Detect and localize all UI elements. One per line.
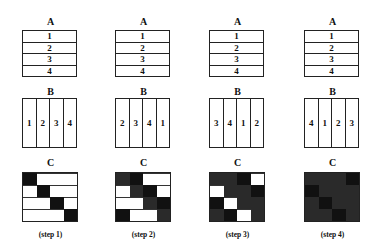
matrix-c-cell-dotted bbox=[224, 173, 238, 185]
matrix-c-cell-white bbox=[251, 173, 265, 185]
matrix-b: 4123 bbox=[304, 98, 359, 148]
matrix-c-cell-black bbox=[237, 173, 251, 185]
matrix-c-cell-dotted bbox=[251, 197, 265, 209]
matrix-c-cell-dotted bbox=[210, 209, 224, 221]
matrix-c-cell-dotted bbox=[237, 197, 251, 209]
step-column-2: A1234B2341C(step 2) bbox=[115, 0, 175, 251]
matrix-c-cell-white bbox=[23, 197, 37, 209]
matrix-c bbox=[115, 172, 171, 222]
matrix-c-cell-black bbox=[23, 173, 37, 185]
matrix-a-row: 2 bbox=[210, 42, 263, 54]
matrix-c-cell-dotted bbox=[237, 185, 251, 197]
matrix-c bbox=[304, 172, 360, 222]
matrix-c-cell-black bbox=[210, 197, 224, 209]
matrix-c-cell-white bbox=[157, 173, 171, 185]
matrix-a-row: 4 bbox=[116, 65, 169, 77]
matrix-c-cell-white bbox=[64, 173, 78, 185]
matrix-c-cell-dotted bbox=[305, 197, 319, 209]
step-column-3: A1234B3412C(step 3) bbox=[209, 0, 269, 251]
label-c: C bbox=[209, 158, 266, 168]
matrix-c-cell-black bbox=[319, 197, 333, 209]
matrix-b-column: 1 bbox=[23, 99, 36, 147]
label-b: B bbox=[304, 87, 361, 97]
matrix-c-cell-dotted bbox=[332, 185, 346, 197]
label-a: A bbox=[22, 17, 79, 27]
matrix-b-column: 4 bbox=[223, 99, 237, 147]
matrix-c-cell-white bbox=[116, 185, 130, 197]
matrix-a-row: 4 bbox=[210, 65, 263, 77]
label-b: B bbox=[22, 87, 79, 97]
step-caption: (step 3) bbox=[209, 230, 266, 239]
matrix-c-cell-dotted bbox=[157, 209, 171, 221]
matrix-c-cell-white bbox=[37, 173, 51, 185]
matrix-c-cell-dotted bbox=[116, 173, 130, 185]
matrix-a-row: 1 bbox=[305, 31, 358, 42]
matrix-c-cell-dotted bbox=[251, 209, 265, 221]
matrix-b-column: 3 bbox=[49, 99, 63, 147]
matrix-c-cell-white bbox=[157, 185, 171, 197]
matrix-b-column: 3 bbox=[210, 99, 223, 147]
matrix-c-cell-white bbox=[50, 173, 64, 185]
step-caption: (step 2) bbox=[115, 230, 172, 239]
matrix-c-cell-dotted bbox=[319, 173, 333, 185]
matrix-b: 3412 bbox=[209, 98, 264, 148]
matrix-c-cell-dotted bbox=[224, 185, 238, 197]
step-column-1: A1234B1234C(step 1) bbox=[22, 0, 82, 251]
matrix-a-row: 2 bbox=[23, 42, 76, 54]
matrix-c-cell-dotted bbox=[210, 173, 224, 185]
matrix-c-cell-dotted bbox=[332, 197, 346, 209]
matrix-c-cell-white bbox=[224, 197, 238, 209]
matrix-c-cell-white bbox=[23, 209, 37, 221]
matrix-c-cell-white bbox=[64, 185, 78, 197]
matrix-a: 1234 bbox=[209, 30, 264, 77]
matrix-c-cell-black bbox=[251, 185, 265, 197]
matrix-b-column: 2 bbox=[36, 99, 50, 147]
matrix-c-cell-dotted bbox=[305, 209, 319, 221]
matrix-c bbox=[209, 172, 265, 222]
matrix-c-cell-white bbox=[64, 197, 78, 209]
matrix-b-column: 3 bbox=[345, 99, 359, 147]
matrix-b-column: 2 bbox=[331, 99, 345, 147]
matrix-c bbox=[22, 172, 78, 222]
matrix-c-cell-white bbox=[130, 197, 144, 209]
matrix-c-cell-black bbox=[224, 209, 238, 221]
matrix-b-column: 4 bbox=[63, 99, 77, 147]
matrix-c-cell-black bbox=[37, 185, 51, 197]
matrix-a-row: 1 bbox=[116, 31, 169, 42]
matrix-c-cell-white bbox=[237, 209, 251, 221]
label-c: C bbox=[304, 158, 361, 168]
matrix-b-column: 4 bbox=[142, 99, 156, 147]
matrix-b: 1234 bbox=[22, 98, 77, 148]
label-b: B bbox=[209, 87, 266, 97]
matrix-c-cell-dotted bbox=[305, 173, 319, 185]
matrix-c-cell-white bbox=[37, 197, 51, 209]
label-a: A bbox=[304, 17, 361, 27]
matrix-c-cell-white bbox=[37, 209, 51, 221]
step-caption: (step 4) bbox=[304, 230, 361, 239]
step-caption: (step 1) bbox=[22, 230, 79, 239]
matrix-c-cell-black bbox=[130, 173, 144, 185]
matrix-c-cell-white bbox=[143, 173, 157, 185]
matrix-b-column: 4 bbox=[305, 99, 318, 147]
matrix-a-row: 3 bbox=[23, 53, 76, 65]
step-column-4: A1234B4123C(step 4) bbox=[304, 0, 364, 251]
matrix-b-column: 1 bbox=[156, 99, 170, 147]
matrix-a-row: 3 bbox=[305, 53, 358, 65]
matrix-b-column: 1 bbox=[318, 99, 332, 147]
matrix-b-column: 3 bbox=[129, 99, 143, 147]
matrix-c-cell-black bbox=[332, 209, 346, 221]
matrix-a-row: 3 bbox=[116, 53, 169, 65]
matrix-c-cell-black bbox=[143, 185, 157, 197]
matrix-c-cell-black bbox=[346, 173, 360, 185]
matrix-c-cell-white bbox=[116, 197, 130, 209]
matrix-b-column: 1 bbox=[236, 99, 250, 147]
matrix-c-cell-black bbox=[116, 209, 130, 221]
matrix-c-cell-dotted bbox=[346, 185, 360, 197]
matrix-c-cell-dotted bbox=[346, 209, 360, 221]
matrix-c-cell-dotted bbox=[130, 185, 144, 197]
matrix-a-row: 2 bbox=[305, 42, 358, 54]
matrix-b-column: 2 bbox=[250, 99, 264, 147]
label-a: A bbox=[115, 17, 172, 27]
matrix-b-column: 2 bbox=[116, 99, 129, 147]
matrix-c-cell-white bbox=[143, 209, 157, 221]
